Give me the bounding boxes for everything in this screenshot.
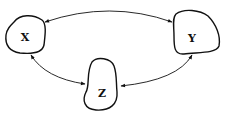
node-y-label: Y xyxy=(187,32,196,45)
node-x: X xyxy=(6,16,45,54)
node-x-label: X xyxy=(21,31,30,44)
edge-x-z xyxy=(31,55,85,84)
edge-z-y xyxy=(121,55,192,86)
edge-x-y xyxy=(45,11,172,22)
node-z: Z xyxy=(84,59,117,111)
node-y: Y xyxy=(174,10,220,54)
diagram-canvas: X Y Z xyxy=(0,0,226,116)
node-z-label: Z xyxy=(98,87,106,100)
